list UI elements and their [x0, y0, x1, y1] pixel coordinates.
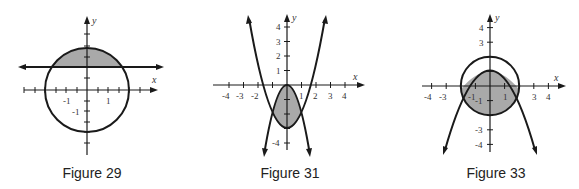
- x-tick-label: 4: [546, 92, 551, 102]
- figure-29: y x -1 1 -1 Figure 29: [0, 0, 193, 189]
- figure-caption: Figure 29: [62, 165, 121, 181]
- figure-29-plot: y x -1 1 -1: [0, 0, 193, 165]
- x-tick-label: -2: [251, 91, 259, 101]
- y-tick-label: 4: [276, 22, 281, 32]
- x-axis-label: x: [553, 72, 559, 83]
- y-tick-label: -1: [475, 96, 483, 106]
- y-tick-label: 4: [479, 23, 484, 33]
- y-tick-label: 3: [479, 38, 484, 48]
- y-axis-arrow-icon: [84, 16, 90, 24]
- y-axis-label: y: [494, 12, 500, 23]
- figure-31-plot: y x -4 -3 -2 1 2 3 4 4 3 2 1 -4: [193, 0, 386, 165]
- x-tick-label: 3: [532, 92, 537, 102]
- arrow-icon: [246, 15, 252, 24]
- x-axis-arrow-icon: [357, 82, 365, 88]
- x-axis-label: x: [151, 74, 157, 85]
- x-tick-label: -3: [439, 92, 447, 102]
- y-tick-label: -4: [272, 138, 280, 148]
- x-tick-label: -3: [236, 91, 244, 101]
- x-tick-label: 4: [342, 91, 347, 101]
- x-tick-label: 3: [328, 91, 333, 101]
- x-tick-label: -1: [63, 96, 71, 106]
- figure-caption: Figure 31: [260, 165, 319, 181]
- y-axis-label: y: [91, 15, 97, 26]
- figure-caption: Figure 33: [466, 165, 525, 181]
- arrow-icon: [532, 146, 537, 155]
- x-tick-label: -4: [424, 92, 432, 102]
- arrow-icon: [443, 146, 448, 155]
- x-tick-label: 1: [503, 92, 508, 102]
- x-axis-arrow-icon: [558, 83, 566, 89]
- y-tick-label: 2: [276, 51, 281, 61]
- figure-33: y x -4 -3 -1 1 3 4 4 3 -1 -3 -4 Figure 3…: [386, 0, 579, 189]
- arrow-icon: [262, 148, 268, 157]
- y-tick-label: 1: [276, 66, 281, 76]
- x-tick-label: 2: [313, 91, 318, 101]
- x-tick-label: 1: [106, 96, 111, 106]
- arrow-left-icon: [18, 64, 26, 70]
- arrow-icon: [306, 148, 312, 157]
- arrow-icon: [322, 15, 328, 24]
- figure-31: y x -4 -3 -2 1 2 3 4 4 3 2 1 -4 Figure 3…: [193, 0, 386, 189]
- y-tick-label: 3: [276, 37, 281, 47]
- x-tick-label: -4: [222, 91, 230, 101]
- x-tick-label: 1: [299, 91, 304, 101]
- x-axis-label: x: [352, 71, 358, 82]
- y-tick-label: -3: [475, 125, 483, 135]
- y-tick-label: -4: [475, 140, 483, 150]
- y-axis-arrow-icon: [487, 14, 493, 22]
- x-axis-arrow-icon: [150, 87, 158, 93]
- y-tick-label: -1: [72, 107, 80, 117]
- figure-33-plot: y x -4 -3 -1 1 3 4 4 3 -1 -3 -4: [386, 0, 579, 165]
- y-axis-label: y: [291, 12, 297, 23]
- y-axis-arrow-icon: [284, 14, 290, 22]
- arrow-right-icon: [156, 64, 164, 70]
